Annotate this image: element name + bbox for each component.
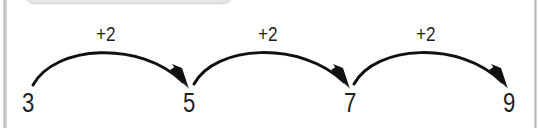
number-7: 7 xyxy=(344,90,356,117)
jump-arrow-3-to-5 xyxy=(33,53,189,89)
jump-label-1: +2 xyxy=(96,23,116,44)
jump-label-2: +2 xyxy=(258,23,278,44)
jump-arrow-7-to-9 xyxy=(354,53,508,89)
number-line-diagram: +2 +2 +2 3 5 7 9 xyxy=(0,0,539,128)
number-9: 9 xyxy=(503,90,515,117)
number-5: 5 xyxy=(183,90,195,117)
jump-arrows xyxy=(0,0,539,128)
jump-label-3: +2 xyxy=(416,23,436,44)
number-3: 3 xyxy=(22,90,34,117)
jump-arrow-5-to-7 xyxy=(194,53,350,89)
